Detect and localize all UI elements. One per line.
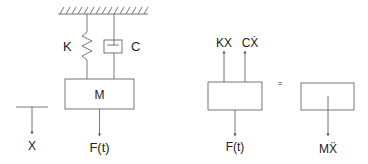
equals-sign: = [278, 79, 283, 88]
damper-element [104, 14, 122, 79]
spring-element [82, 14, 92, 79]
damper-label: C [131, 39, 140, 54]
mass-label: M [95, 88, 105, 102]
spring-label: K [63, 39, 72, 54]
displacement-label: X [28, 139, 36, 153]
displacement-reference [16, 107, 48, 133]
spring-force-label: KX [216, 36, 232, 50]
applied-force-label: F(t) [89, 140, 109, 155]
free-body-force-label: F(t) [226, 140, 245, 154]
fixed-support-ceiling [58, 7, 148, 14]
inertia-force-label: MẌ [319, 142, 337, 156]
inertia-block [301, 83, 354, 110]
diagram-canvas: K C M F(t) X KX CẊ F(t) = MẌ [0, 0, 368, 164]
damper-force-label: CẊ [242, 36, 259, 50]
free-body-block [208, 82, 262, 110]
